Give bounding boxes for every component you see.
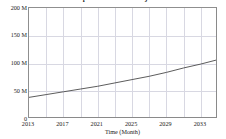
x-axis-tick-label: 2017 (47, 120, 77, 128)
y-axis-tick-label: 50 M (1, 87, 27, 94)
series-line-chart (29, 8, 217, 118)
y-axis-tick-label: 200 M (1, 4, 27, 11)
x-axis-tick-label: 2013 (13, 120, 43, 128)
x-axis-tick-label: 2025 (116, 120, 146, 128)
series-line-projected-value (29, 60, 217, 98)
chart-container: U.S. Population Growth Projection 200 M1… (0, 0, 226, 139)
x-axis-label: Time (Month) (28, 128, 217, 136)
x-axis-tick-label: 2029 (150, 120, 180, 128)
x-axis-tick-label: 2021 (82, 120, 112, 128)
plot-area (28, 7, 217, 118)
y-axis-tick-label: 100 M (1, 59, 27, 66)
x-axis-tick-label: 2033 (185, 120, 215, 128)
chart-title: U.S. Population Growth Projection (0, 0, 226, 4)
y-axis-tick-label: 150 M (1, 31, 27, 38)
